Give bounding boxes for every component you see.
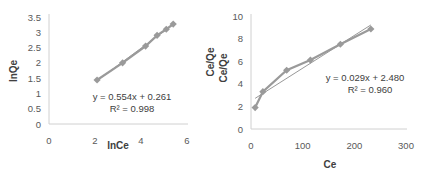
right-series xyxy=(252,25,375,111)
y-tick-label: 0 xyxy=(238,124,243,135)
y-tick-label: 4 xyxy=(238,78,243,89)
right-y-axis-label-secondary: Ce/Qe xyxy=(218,53,229,82)
y-tick-label: 0 xyxy=(36,119,41,130)
right-trend-equation: y = 0.029x + 2.480 xyxy=(326,72,405,83)
y-tick-label: 0.5 xyxy=(28,103,41,114)
y-tick-label: 1.5 xyxy=(28,73,41,84)
y-tick-label: 3.5 xyxy=(28,12,41,23)
y-tick-label: 1 xyxy=(36,88,41,99)
left-y-axis-label: lnQe xyxy=(8,59,19,82)
x-tick-label: 300 xyxy=(398,140,414,151)
y-tick-label: 10 xyxy=(232,11,243,22)
left-chart: 00.511.522.533.5 0246 lnQe lnCe y = 0.55… xyxy=(8,12,190,152)
y-tick-label: 2.5 xyxy=(28,42,41,53)
right-y-tick-labels: 0246810 xyxy=(232,11,243,135)
x-tick-label: 0 xyxy=(46,135,51,146)
x-tick-label: 4 xyxy=(138,135,143,146)
series-line xyxy=(255,29,371,108)
x-tick-label: 0 xyxy=(248,140,253,151)
y-tick-label: 3 xyxy=(36,27,41,38)
y-tick-label: 2 xyxy=(36,57,41,68)
left-trend-equation: y = 0.554x + 0.261 xyxy=(93,91,172,102)
x-tick-label: 6 xyxy=(184,135,189,146)
y-tick-label: 8 xyxy=(238,33,243,44)
series-line xyxy=(97,24,173,80)
x-tick-label: 2 xyxy=(92,135,97,146)
y-tick-label: 2 xyxy=(238,101,243,112)
x-tick-label: 200 xyxy=(346,140,362,151)
left-trend-r2: R² = 0.998 xyxy=(110,103,155,114)
right-y-axis-label: Ce/Qe xyxy=(205,47,216,76)
left-series xyxy=(93,20,176,83)
right-x-axis-label: Ce xyxy=(324,159,337,170)
data-point-marker xyxy=(252,104,259,111)
chart-canvas: 00.511.522.533.5 0246 lnQe lnCe y = 0.55… xyxy=(0,0,427,175)
left-x-axis-label: lnCe xyxy=(107,140,129,151)
right-x-tick-labels: 0100200300 xyxy=(248,140,414,151)
right-chart: 0246810 0100200300 Ce/Qe Ce/Qe Ce y = 0.… xyxy=(205,11,414,171)
left-y-tick-labels: 00.511.522.533.5 xyxy=(28,12,41,130)
x-tick-label: 100 xyxy=(295,140,311,151)
y-tick-label: 6 xyxy=(238,56,243,67)
right-trend-r2: R² = 0.960 xyxy=(348,84,393,95)
